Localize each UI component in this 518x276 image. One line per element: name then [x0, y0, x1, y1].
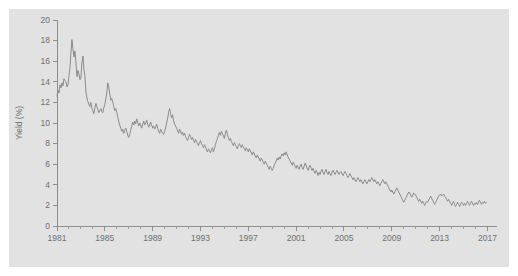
y-tick-label: 18 [41, 35, 51, 45]
x-tick-label: 2017 [478, 233, 497, 243]
y-axis-group: 02468101214161820 Yield (%) [14, 15, 57, 231]
y-tick-label: 6 [45, 159, 50, 169]
x-tick-label: 1989 [143, 233, 162, 243]
yield-series-line [57, 40, 486, 207]
y-tick-label: 2 [45, 200, 50, 210]
x-tick-label: 1985 [95, 233, 114, 243]
y-tick-label: 10 [41, 118, 51, 128]
y-tick-label: 16 [41, 56, 51, 66]
chart-svg: 02468101214161820 Yield (%) 198119851989… [0, 0, 518, 276]
x-axis-group: 1981198519891993199720012005200920132017 [48, 226, 498, 243]
y-tick-label: 20 [41, 15, 51, 25]
y-tick-label: 4 [45, 180, 50, 190]
x-tick-label: 2001 [287, 233, 306, 243]
x-tick-label: 1981 [48, 233, 67, 243]
y-tick-label: 14 [41, 77, 51, 87]
y-tick-group: 02468101214161820 [41, 15, 57, 231]
y-tick-label: 12 [41, 97, 51, 107]
chart-figure: 02468101214161820 Yield (%) 198119851989… [0, 0, 518, 276]
x-tick-label: 1997 [239, 233, 258, 243]
y-axis-title: Yield (%) [14, 106, 24, 140]
x-tick-label: 2005 [334, 233, 353, 243]
x-tick-label: 2009 [382, 233, 401, 243]
x-tick-label: 2013 [430, 233, 449, 243]
x-tick-label: 1993 [191, 233, 210, 243]
y-tick-label: 8 [45, 138, 50, 148]
x-tick-group: 1981198519891993199720012005200920132017 [48, 226, 498, 243]
y-tick-label: 0 [45, 221, 50, 231]
